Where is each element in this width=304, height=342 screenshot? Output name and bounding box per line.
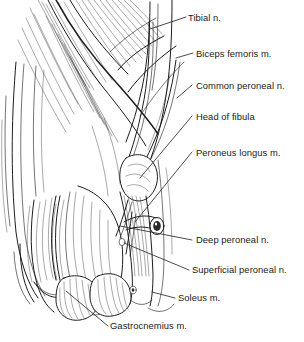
label-common-peroneal-nerve: Common peroneal n.: [196, 80, 285, 91]
label-peroneus-longus: Peroneus longus m.: [196, 147, 280, 158]
label-biceps-femoris: Biceps femoris m.: [196, 48, 272, 59]
label-soleus: Soleus m.: [178, 292, 220, 303]
label-tibial-nerve: Tibial n.: [188, 12, 221, 23]
label-superficial-peroneal-nerve: Superficial peroneal n.: [192, 264, 287, 275]
anatomy-illustration: Tibial n. Biceps femoris m. Common peron…: [0, 0, 304, 342]
fibular-head: [120, 155, 158, 201]
label-head-of-fibula: Head of fibula: [196, 111, 255, 122]
label-deep-peroneal-nerve: Deep peroneal n.: [196, 234, 269, 245]
label-gastrocnemius: Gastrocnemius m.: [110, 320, 187, 331]
anatomy-figure: Tibial n. Biceps femoris m. Common peron…: [0, 0, 304, 342]
